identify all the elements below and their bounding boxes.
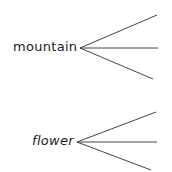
branch-line: [77, 112, 156, 142]
branch-line: [80, 15, 157, 48]
flower-branches: [77, 112, 157, 170]
branch-line: [80, 48, 153, 79]
branch-lines: [0, 0, 172, 172]
branch-line: [77, 142, 151, 170]
mountain-branches: [80, 15, 158, 79]
